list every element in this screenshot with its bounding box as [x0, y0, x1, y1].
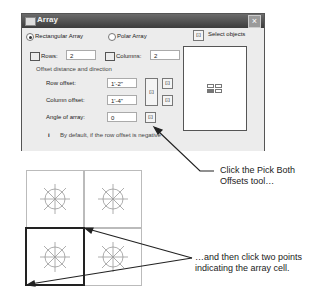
burner-icon: [98, 184, 128, 214]
burner-icon: [98, 242, 128, 272]
two-points-callout: …and then click two points indicating th…: [195, 252, 320, 274]
pick-both-callout: Click the Pick Both Offsets tool…: [220, 165, 320, 187]
burner-icon: [40, 242, 70, 272]
burner-icon: [40, 184, 70, 214]
